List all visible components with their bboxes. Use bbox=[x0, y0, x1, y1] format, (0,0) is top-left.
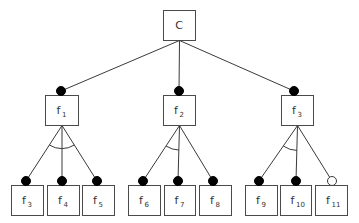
mandatory-connector-icon bbox=[139, 177, 148, 186]
feature-subscript: 11 bbox=[332, 201, 341, 209]
mandatory-connector-icon bbox=[290, 87, 299, 96]
mandatory-connector-icon bbox=[292, 177, 301, 186]
feature-subscript: 10 bbox=[296, 201, 305, 209]
feature-node-f5: f5 bbox=[83, 186, 115, 216]
feature-subscript: 3 bbox=[28, 201, 32, 209]
feature-node-f2: f2 bbox=[164, 96, 196, 126]
feature-subscript: 6 bbox=[145, 201, 150, 209]
feature-subscript: 4 bbox=[64, 201, 69, 209]
mandatory-connector-icon bbox=[174, 177, 183, 186]
edge-f2-f6 bbox=[143, 126, 180, 182]
edge-f1-f5 bbox=[62, 126, 97, 182]
feature-node-f1: f1 bbox=[46, 96, 79, 126]
edge-c-f2 bbox=[179, 41, 180, 92]
edge-f3-f11 bbox=[298, 126, 333, 182]
edge-f2-f8 bbox=[180, 126, 214, 182]
edge-c-f1 bbox=[61, 41, 180, 92]
feature-node-f3: f3 bbox=[282, 96, 314, 126]
edge-f1-f3 bbox=[26, 126, 62, 182]
feature-subscript: 8 bbox=[216, 201, 220, 209]
feature-node-f9: f9 bbox=[246, 186, 278, 216]
feature-subscript: 2 bbox=[180, 111, 184, 119]
mandatory-connector-icon bbox=[57, 87, 66, 96]
feature-node-f10: f10 bbox=[281, 186, 312, 216]
group-arcs-layer bbox=[49, 145, 297, 150]
optional-connector-icon bbox=[328, 177, 337, 186]
feature-node-f11: f11 bbox=[316, 186, 348, 216]
feature-node-f6: f6 bbox=[129, 186, 161, 216]
feature-node-f7: f7 bbox=[165, 186, 196, 216]
feature-node-f3: f3 bbox=[12, 186, 44, 216]
edge-f3-f10 bbox=[296, 126, 298, 182]
mandatory-connector-icon bbox=[93, 177, 102, 186]
edge-c-f3 bbox=[180, 41, 295, 92]
mandatory-connector-icon bbox=[22, 177, 31, 186]
mandatory-connector-icon bbox=[255, 177, 264, 186]
feature-subscript: 3 bbox=[298, 111, 302, 119]
mandatory-connector-icon bbox=[209, 177, 218, 186]
feature-subscript: 7 bbox=[180, 201, 184, 209]
mandatory-connector-icon bbox=[58, 177, 67, 186]
group-arc-f2 bbox=[166, 146, 179, 150]
feature-node-c: C bbox=[164, 11, 196, 41]
feature-model-diagram: Cf1f2f3f3f4f5f6f7f8f9f10f11 bbox=[0, 0, 359, 223]
feature-subscript: 5 bbox=[99, 201, 103, 209]
feature-node-f4: f4 bbox=[48, 186, 80, 216]
mandatory-connector-icon bbox=[175, 87, 184, 96]
feature-label: C bbox=[175, 19, 183, 32]
group-arc-f3 bbox=[283, 146, 297, 150]
edge-f2-f7 bbox=[178, 126, 180, 182]
feature-subscript: 1 bbox=[62, 111, 66, 119]
feature-subscript: 9 bbox=[262, 201, 266, 209]
feature-node-f8: f8 bbox=[200, 186, 232, 216]
edge-f3-f9 bbox=[259, 126, 298, 182]
